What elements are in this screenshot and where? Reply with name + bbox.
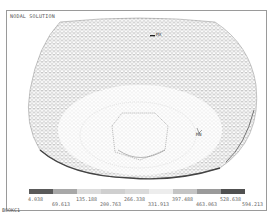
legend-segment (101, 189, 125, 194)
legend-segment (149, 189, 173, 194)
legend-tick: 200.763 (100, 201, 121, 207)
legend-segment (197, 189, 221, 194)
legend-segment (29, 189, 53, 194)
legend-segment (77, 189, 101, 194)
jobname-label: BOOKC1 (2, 207, 20, 213)
legend-tick: 594.213 (242, 201, 263, 207)
legend-tick: 266.338 (124, 196, 145, 202)
max-marker: MX (156, 32, 161, 37)
legend-segment (125, 189, 149, 194)
legend-segment (221, 189, 245, 194)
color-legend-bar (29, 189, 245, 194)
legend-tick: 463.063 (196, 201, 217, 207)
legend-segment (53, 189, 77, 194)
bowl-mesh-plot (0, 0, 274, 216)
min-marker: MN (196, 132, 201, 137)
legend-tick: 528.638 (220, 196, 241, 202)
legend-tick: 397.488 (172, 196, 193, 202)
bowl-inner-region (58, 85, 222, 175)
legend-tick: 331.913 (148, 201, 169, 207)
legend-segment (173, 189, 197, 194)
legend-tick: 135.188 (76, 196, 97, 202)
legend-tick: 4.038 (28, 196, 43, 202)
legend-tick: 69.613 (52, 201, 70, 207)
